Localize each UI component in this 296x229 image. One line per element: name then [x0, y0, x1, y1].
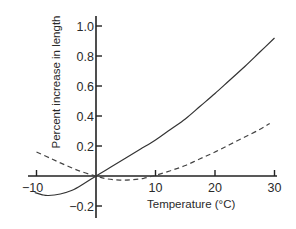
series-dashed-line [37, 124, 270, 181]
y-tick-label: −0.2 [69, 200, 94, 214]
y-ticks: 1.00.80.60.40.2−0.2 [69, 20, 102, 214]
x-tick-label: 20 [208, 181, 222, 195]
x-tick-label: 30 [268, 181, 282, 195]
y-tick-label: 0.2 [77, 140, 94, 154]
series-layer [35, 38, 275, 196]
x-ticks: −10102030 [22, 170, 282, 195]
y-tick-label: 0.8 [77, 50, 94, 64]
chart: −10102030 1.00.80.60.40.2−0.2 Temperatur… [0, 0, 296, 229]
y-tick-label: 0.4 [77, 110, 94, 124]
y-tick-label: 0.6 [77, 80, 94, 94]
x-axis-title: Temperature (°C) [147, 198, 235, 210]
x-tick-label: −10 [22, 181, 43, 195]
y-tick-label: 1.0 [77, 20, 94, 34]
x-tick-label: 10 [149, 181, 163, 195]
series-solid-line [35, 38, 275, 196]
y-axis-title: Percent increase in length [50, 16, 62, 149]
